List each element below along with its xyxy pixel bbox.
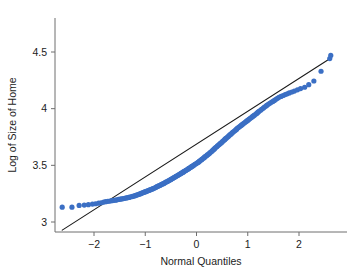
y-tick-label: 3.5 [32,159,47,171]
qq-plot-figure: −2−1012 33.544.5 Normal Quantiles Log of… [0,0,351,274]
x-tick-label: 0 [194,238,200,250]
data-point [69,205,74,210]
data-point [318,69,323,74]
x-tick-label: 2 [296,238,302,250]
x-tick-label: −2 [88,238,100,250]
data-point [311,78,316,83]
data-point [306,82,311,87]
data-point [60,205,65,210]
y-tick-label: 4.5 [32,46,47,58]
x-tick-label: −1 [139,238,151,250]
x-axis-title: Normal Quantiles [160,255,241,267]
y-tick-label: 4 [41,102,47,114]
plot-canvas: −2−1012 33.544.5 Normal Quantiles Log of… [0,0,351,274]
y-tick-label: 3 [41,216,47,228]
x-tick-label: 1 [245,238,251,250]
y-axis-title: Log of Size of Home [6,77,18,172]
data-point [328,53,333,58]
plot-background [0,0,351,274]
data-point [77,203,82,208]
